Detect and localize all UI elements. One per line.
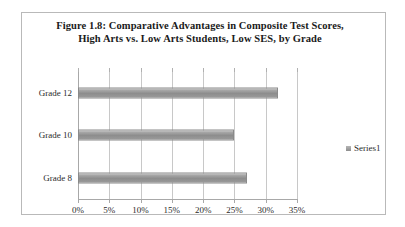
y-axis-category-label: Grade 12 [39,88,72,98]
x-axis-tick-label: 0% [72,205,84,215]
bar [78,88,278,99]
y-axis-category-label: Grade 10 [39,130,72,140]
x-axis-tick-label: 15% [164,205,181,215]
axis-tick [203,199,204,203]
x-axis-tick-label: 35% [289,205,306,215]
bar-row: Grade 12 [78,72,297,114]
chart-frame: Figure 1.8: Comparative Advantages in Co… [21,12,386,215]
axis-tick [78,199,79,203]
legend-square-icon [346,146,351,151]
axis-tick [109,199,110,203]
x-axis-tick-label: 25% [226,205,243,215]
chart-legend: Series1 [346,143,381,153]
x-axis-tick-label: 5% [103,205,115,215]
chart-title: Figure 1.8: Comparative Advantages in Co… [50,19,350,45]
bar-row: Grade 8 [78,157,297,199]
tick-mark-top [297,68,298,72]
x-axis-tick-label: 10% [132,205,149,215]
axis-tick [297,199,298,203]
axis-tick [234,199,235,203]
plot-area: Grade 12Grade 10Grade 8 0%5%10%15%20%25%… [78,72,297,199]
x-axis-tick-label: 30% [257,205,274,215]
axis-tick [141,199,142,203]
axis-tick [172,199,173,203]
bar [78,130,234,141]
x-axis-line [78,199,297,200]
legend-item-label: Series1 [354,143,381,153]
gridline [297,72,298,199]
axis-tick [266,199,267,203]
bar [78,172,247,183]
y-axis-category-label: Grade 8 [43,173,72,183]
x-axis-tick-label: 20% [195,205,212,215]
bar-row: Grade 10 [78,114,297,156]
